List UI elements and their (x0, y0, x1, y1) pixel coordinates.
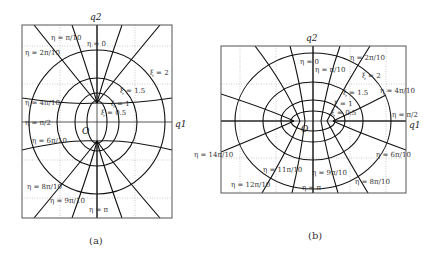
eta-label: η = 0 (87, 40, 106, 48)
elliptic-coordinates-figure: q2 q1 O ξ = 2 ξ = 1.5 ξ = 1 ξ = 0.5 η = … (0, 0, 442, 261)
panel-b-caption: (b) (308, 230, 322, 241)
xi-label: ξ = 0.5 (331, 109, 356, 117)
xi-label: ξ = 2 (150, 69, 169, 77)
eta-label: η = 4π/10 (25, 99, 60, 107)
q2-axis-label: q2 (90, 12, 102, 22)
q1-axis-label: q1 (175, 119, 187, 129)
eta-label: η = π/10 (315, 66, 345, 74)
origin-label: O (82, 126, 90, 136)
eta-label: η = π (89, 206, 109, 214)
eta-label: η = π/10 (51, 34, 81, 42)
eta-label: η = 9π/10 (312, 169, 347, 177)
q1-axis-label: q1 (409, 120, 421, 130)
eta-label: η = 4π/10 (380, 87, 415, 95)
eta-label: η = 2π/10 (25, 49, 60, 57)
eta-label: η = 14π/10 (194, 151, 233, 159)
eta-label: η = 8π/10 (27, 183, 62, 191)
xi-label: ξ = 1.5 (120, 87, 145, 95)
eta-label: η = 6π/10 (376, 151, 411, 159)
xi-label: ξ = 2 (362, 72, 381, 80)
eta-label: η = π (302, 184, 322, 192)
panel-a: q2 q1 O ξ = 2 ξ = 1.5 ξ = 1 ξ = 0.5 η = … (22, 12, 187, 246)
panel-a-caption: (a) (89, 235, 103, 246)
panel-b: q2 q1 O ξ = 2 ξ = 1.5 ξ = 1 ξ = 0.5 η = … (194, 33, 421, 241)
xi-label: ξ = 1 (334, 100, 353, 108)
eta-label: η = 6π/10 (32, 137, 67, 145)
xi-label: ξ = 1.5 (343, 89, 368, 97)
eta-label: η = 11π/10 (263, 166, 302, 174)
q2-axis-label: q2 (306, 33, 318, 43)
eta-label: η = π/2 (25, 119, 51, 127)
eta-label: η = 2π/10 (350, 54, 385, 62)
eta-label: η = 12π/10 (231, 181, 270, 189)
eta-label: η = 0 (300, 58, 319, 66)
origin-label: O (301, 124, 309, 134)
xi-label: ξ = 0.5 (101, 109, 126, 117)
eta-label: η = 9π/10 (50, 197, 85, 205)
xi-label: ξ = 1 (111, 100, 130, 108)
eta-label: η = 8π/10 (355, 178, 390, 186)
eta-label: η = π/2 (392, 111, 418, 119)
